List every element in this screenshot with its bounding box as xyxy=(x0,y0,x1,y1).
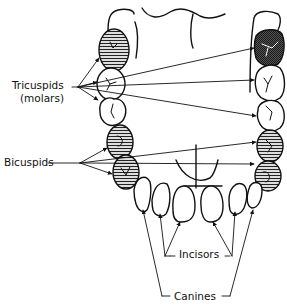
left-molar-3 xyxy=(100,98,126,125)
right-canine xyxy=(247,183,262,208)
label-bicuspids: Bicuspids xyxy=(4,156,54,168)
left-incisor-lateral xyxy=(152,183,170,216)
bicuspids-leaders xyxy=(48,142,256,174)
left-incisor-central xyxy=(173,186,195,222)
label-incisors: Incisors xyxy=(179,248,219,260)
left-canine xyxy=(134,177,151,211)
right-incisor-lateral xyxy=(229,184,247,215)
label-tricuspids-sub: (molars) xyxy=(20,92,64,104)
left-bicuspid-1 xyxy=(107,125,133,159)
left-molar-1 xyxy=(99,29,129,71)
right-molar-3 xyxy=(257,100,284,130)
label-tricuspids: Tricuspids xyxy=(12,79,64,91)
right-bicuspid-1 xyxy=(257,130,283,162)
right-incisor-central xyxy=(201,186,223,222)
right-molar-1 xyxy=(255,30,285,66)
left-molar-2 xyxy=(97,68,125,100)
dental-arch-diagram xyxy=(0,0,287,307)
label-canines: Canines xyxy=(174,290,216,302)
right-molar-2 xyxy=(255,65,284,101)
